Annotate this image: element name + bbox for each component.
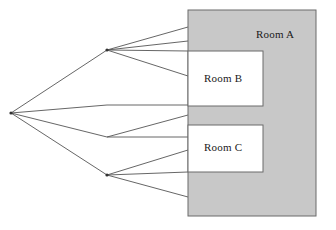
eye-point-vertex xyxy=(9,111,12,114)
sight-ray xyxy=(11,50,107,113)
sight-ray xyxy=(107,115,188,137)
sight-ray xyxy=(107,175,188,197)
sight-ray xyxy=(11,105,107,113)
lower-portal-vertex xyxy=(105,173,108,176)
sight-ray xyxy=(11,113,107,137)
room-a-label: Room A xyxy=(256,28,294,40)
diagram-canvas: Room A Room B Room C xyxy=(0,0,336,230)
sight-ray xyxy=(107,172,188,175)
sight-ray xyxy=(107,150,188,175)
vertex-group xyxy=(9,48,108,176)
room-c-label: Room C xyxy=(204,141,242,153)
room-a-rect xyxy=(188,10,316,216)
room-b-label: Room B xyxy=(204,72,242,84)
sight-ray xyxy=(11,113,107,175)
sight-ray-group xyxy=(11,27,188,197)
sight-ray xyxy=(107,41,188,50)
upper-portal-vertex xyxy=(105,48,108,51)
sight-ray xyxy=(107,50,188,51)
sight-ray xyxy=(107,50,188,76)
sight-ray xyxy=(107,27,188,50)
